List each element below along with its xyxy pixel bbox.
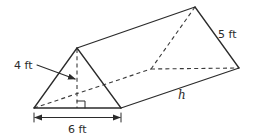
triangle-height-label: 4 ft <box>14 59 33 72</box>
front-right-edge <box>77 48 121 108</box>
prism-length-label: h <box>178 88 186 102</box>
triangle-base-label: 6 ft <box>68 123 87 136</box>
hidden-edge-back-apex-to-back-bottom-left <box>151 7 195 69</box>
hidden-edge-front-bottom-left-to-back-bottom-left <box>34 69 151 108</box>
front-left-edge <box>34 48 77 108</box>
slant-side-label: 5 ft <box>218 28 237 41</box>
triangular-prism-diagram: 4 ft 6 ft 5 ft h <box>0 0 254 139</box>
top-ridge-edge <box>77 7 195 48</box>
hidden-edge-back-bottom <box>151 68 239 69</box>
right-angle-marker <box>77 101 85 108</box>
